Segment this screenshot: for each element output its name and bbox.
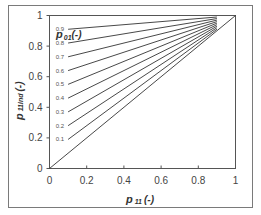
series-labels: 0.10.20.30.40.50.60.70.80.9: [56, 26, 65, 142]
series-label: 0.4: [56, 95, 65, 101]
x-tick-label: 1: [233, 175, 239, 186]
series-label: 0.1: [56, 136, 65, 142]
y-axis-ticks: 00.20.40.60.81: [29, 10, 50, 174]
series-label: 0.2: [56, 123, 65, 129]
x-tick-label: 0: [47, 175, 53, 186]
x-tick-label: 0.2: [80, 175, 94, 186]
series-line-p01-0.2: [68, 28, 217, 126]
x-axis-label: p11(-): [125, 193, 155, 205]
y-axis-label: p11ind(-): [13, 81, 25, 121]
y-axis-label-unit: (-): [14, 81, 25, 92]
y-tick-label: 0.8: [29, 41, 43, 52]
legend-title: p01(-): [55, 28, 82, 41]
x-axis-label-sub: 11: [135, 198, 142, 205]
series-line-p01-0.9: [68, 17, 217, 29]
legend-title-unit: (-): [72, 29, 83, 40]
legend-title-sub: 01: [64, 34, 72, 41]
x-tick-label: 0.6: [154, 175, 168, 186]
x-tick-label: 0.4: [117, 175, 131, 186]
x-axis-label-unit: (-): [144, 194, 155, 205]
series-line-p01-0.4: [68, 25, 217, 98]
y-axis-label-group: p11ind(-): [13, 81, 25, 121]
y-axis-label-sub: 11ind: [17, 93, 24, 111]
series-line-p01-0.7: [68, 20, 217, 57]
series-label: 0.3: [56, 109, 65, 115]
y-axis-label-main: p: [13, 113, 25, 121]
y-tick-label: 1: [37, 10, 43, 21]
series-label: 0.6: [56, 68, 65, 74]
y-tick-label: 0.6: [29, 71, 43, 82]
x-axis-label-main: p: [125, 193, 133, 205]
legend-title-main: p: [55, 28, 63, 40]
y-tick-label: 0.4: [29, 102, 43, 113]
y-tick-label: 0: [37, 163, 43, 174]
series-label: 0.5: [56, 81, 65, 87]
chart: 00.20.40.60.81 00.20.40.60.81 0.10.20.30…: [0, 0, 261, 215]
x-tick-label: 0.8: [191, 175, 205, 186]
y-tick-label: 0.2: [29, 132, 43, 143]
series-line-p01-0.5: [68, 23, 217, 84]
series-label: 0.7: [56, 54, 65, 60]
